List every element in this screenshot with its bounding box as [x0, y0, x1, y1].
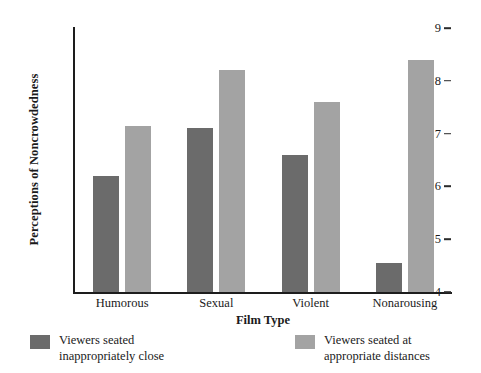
legend-swatch-icon-light	[295, 335, 315, 349]
bar-chart-figure: Perceptions of Noncrowdedness 456789 Hum…	[0, 0, 481, 373]
bar-group	[282, 28, 340, 292]
bar-group	[376, 28, 434, 292]
x-axis-tick-label: Humorous	[96, 296, 149, 311]
bar	[125, 126, 151, 292]
x-axis-tick-label: Nonarousing	[373, 296, 438, 311]
bar	[408, 60, 434, 292]
x-axis-line	[73, 292, 452, 294]
legend-label: Viewers seated inappropriately close	[59, 333, 164, 364]
legend-swatch-icon-dark	[30, 335, 50, 349]
legend-label: Viewers seated at appropriate distances	[324, 333, 430, 364]
bar-group	[93, 28, 151, 292]
chart-legend: Viewers seated inappropriately close Vie…	[0, 333, 481, 373]
bar	[219, 70, 245, 292]
x-axis-title: Film Type	[74, 313, 452, 328]
bar	[282, 155, 308, 292]
x-axis-tick-label: Sexual	[199, 296, 233, 311]
legend-item-inappropriately-close: Viewers seated inappropriately close	[30, 333, 164, 364]
legend-item-appropriate-distances: Viewers seated at appropriate distances	[295, 333, 430, 364]
bars-layer	[75, 28, 452, 292]
bar	[376, 263, 402, 292]
bar	[187, 128, 213, 292]
y-axis-title: Perceptions of Noncrowdedness	[27, 40, 42, 280]
bar	[93, 176, 119, 292]
bar-group	[187, 28, 245, 292]
x-axis-tick-label: Violent	[292, 296, 329, 311]
bar	[314, 102, 340, 292]
